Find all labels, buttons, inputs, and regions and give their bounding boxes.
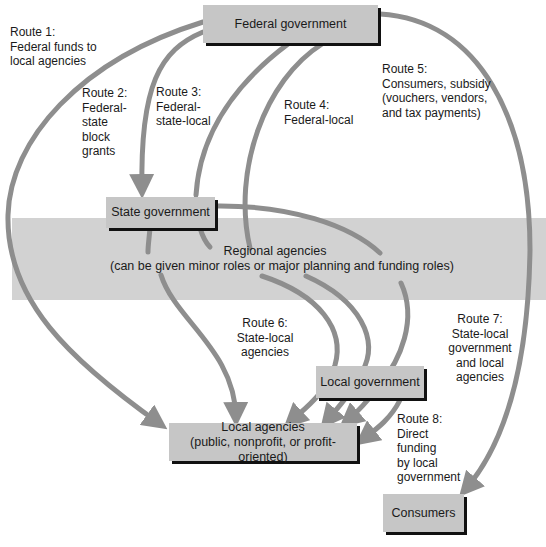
federal-government-label: Federal government: [235, 17, 347, 32]
route-3-label: Route 3: Federal- state-local: [156, 85, 211, 129]
route-2-label: Route 2: Federal- state block grants: [82, 86, 127, 159]
regional-agencies-text: Regional agencies (can be given minor ro…: [110, 244, 440, 274]
federal-government-box: Federal government: [203, 5, 378, 43]
local-agencies-title: Local agencies: [221, 420, 304, 435]
regional-agencies-subtitle: (can be given minor roles or major plann…: [110, 259, 440, 274]
route-8-arrow: [362, 400, 400, 440]
route-5-label: Route 5: Consumers, subsidy (vouchers, v…: [382, 62, 491, 120]
route-8-label: Route 8: Direct funding by local governm…: [397, 412, 460, 485]
state-government-label: State government: [111, 205, 210, 220]
local-agencies-subtitle: (public, nonprofit, or profit-oriented): [169, 435, 357, 465]
route-1-label: Route 1: Federal funds to local agencies: [10, 25, 97, 69]
local-government-label: Local government: [320, 375, 419, 390]
local-government-box: Local government: [316, 366, 424, 398]
regional-agencies-title: Regional agencies: [110, 244, 440, 259]
route-4-label: Route 4: Federal-local: [284, 98, 353, 127]
funding-routes-diagram: Federal government State government Regi…: [0, 0, 546, 547]
consumers-label: Consumers: [392, 506, 456, 521]
state-government-box: State government: [106, 197, 215, 228]
route-7-label: Route 7: State-local government and loca…: [440, 312, 520, 385]
route-6-label: Route 6: State-local agencies: [225, 316, 305, 360]
local-agencies-box: Local agencies (public, nonprofit, or pr…: [169, 423, 357, 461]
consumers-box: Consumers: [383, 494, 464, 532]
